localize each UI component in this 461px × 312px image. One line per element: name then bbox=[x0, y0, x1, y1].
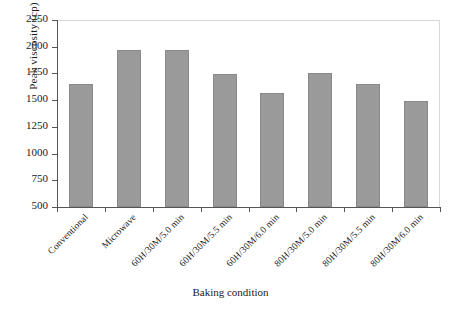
y-axis-tick-label: 1000 bbox=[26, 146, 48, 158]
y-axis-tick-mark bbox=[52, 73, 57, 74]
x-axis-tick-mark bbox=[105, 207, 106, 212]
y-axis-tick-label: 500 bbox=[32, 199, 49, 211]
y-axis-tick-label: 1250 bbox=[26, 119, 48, 131]
y-axis-tick-label: 1500 bbox=[26, 92, 48, 104]
x-axis-tick-mark bbox=[201, 207, 202, 212]
y-axis-tick-mark bbox=[52, 100, 57, 101]
y-axis-line bbox=[57, 20, 58, 208]
y-axis-tick-mark bbox=[52, 180, 57, 181]
bar bbox=[308, 73, 332, 207]
bar-chart-figure: Peak viscosity (cp) 50075010001250150017… bbox=[0, 0, 461, 312]
y-axis-tick-label: 2250 bbox=[26, 12, 48, 24]
x-axis-title: Baking condition bbox=[0, 286, 461, 298]
bar bbox=[213, 74, 237, 207]
x-axis-tick-mark bbox=[344, 207, 345, 212]
y-axis-tick-label: 750 bbox=[32, 172, 49, 184]
x-axis-tick-mark bbox=[392, 207, 393, 212]
y-axis-tick-mark bbox=[52, 154, 57, 155]
x-axis-tick-mark bbox=[57, 207, 58, 212]
bar bbox=[165, 50, 189, 207]
x-axis-tick-mark bbox=[153, 207, 154, 212]
y-axis-tick-label: 2000 bbox=[26, 39, 48, 51]
bar bbox=[69, 84, 93, 207]
bar bbox=[260, 93, 284, 207]
y-axis-tick-mark bbox=[52, 47, 57, 48]
x-axis-tick-mark bbox=[296, 207, 297, 212]
bar bbox=[117, 50, 141, 207]
y-axis-tick-mark bbox=[52, 127, 57, 128]
bar bbox=[404, 101, 428, 207]
plot-area bbox=[57, 20, 440, 207]
y-axis-tick-mark bbox=[52, 20, 57, 21]
bar bbox=[356, 84, 380, 207]
x-axis-tick-mark bbox=[249, 207, 250, 212]
x-axis-tick-mark bbox=[440, 207, 441, 212]
y-axis-tick-label: 1750 bbox=[26, 65, 48, 77]
